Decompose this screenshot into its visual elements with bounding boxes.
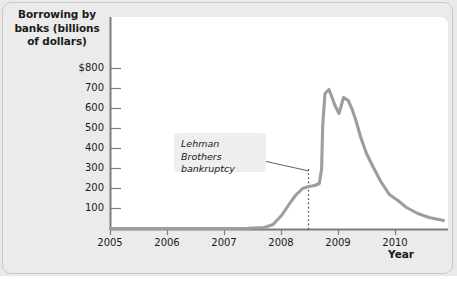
series-line-borrowing-by-banks [111,90,444,229]
annotation-callout-text: Lehman Brothers bankruptcy [181,138,259,176]
y-axis-ticks [111,69,121,209]
annotation-callout-lehman: Lehman Brothers bankruptcy [174,133,266,172]
figure-container: Borrowing by banks (billions of dollars)… [0,0,457,285]
annotation-line-2: bankruptcy [181,163,259,176]
axes-group [110,17,448,230]
callout-leader-line [264,161,309,171]
annotation-line-1: Lehman Brothers [181,138,259,163]
